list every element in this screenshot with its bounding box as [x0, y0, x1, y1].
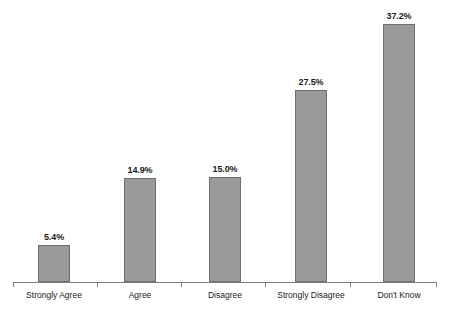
- value-label-dont-know: 37.2%: [359, 11, 439, 22]
- value-label-strongly-agree: 5.4%: [14, 232, 94, 243]
- bar-strongly-agree: [38, 245, 70, 282]
- x-axis-tick-5: [436, 282, 437, 287]
- value-label-agree: 14.9%: [100, 165, 180, 176]
- value-label-strongly-disagree: 27.5%: [271, 77, 351, 88]
- x-axis-line: [13, 282, 437, 283]
- x-axis-tick-3: [265, 282, 266, 287]
- plot-area: 5.4% 14.9% 15.0% 27.5% 37.2% Strongly Ag…: [0, 0, 451, 317]
- bar-agree: [124, 178, 156, 282]
- x-axis-tick-2: [181, 282, 182, 287]
- value-label-disagree: 15.0%: [185, 164, 265, 175]
- x-axis-label-agree: Agree: [100, 289, 180, 301]
- x-axis-tick-0: [13, 282, 14, 287]
- x-axis-label-strongly-disagree: Strongly Disagree: [271, 289, 351, 301]
- x-axis-label-strongly-agree: Strongly Agree: [14, 289, 94, 301]
- bar-strongly-disagree: [295, 90, 327, 282]
- bar-chart: 5.4% 14.9% 15.0% 27.5% 37.2% Strongly Ag…: [0, 0, 451, 317]
- x-axis-label-dont-know: Don't Know: [359, 289, 439, 301]
- bar-disagree: [209, 177, 241, 282]
- x-axis-label-disagree: Disagree: [185, 289, 265, 301]
- x-axis-tick-1: [97, 282, 98, 287]
- bar-dont-know: [383, 24, 415, 282]
- x-axis-tick-4: [350, 282, 351, 287]
